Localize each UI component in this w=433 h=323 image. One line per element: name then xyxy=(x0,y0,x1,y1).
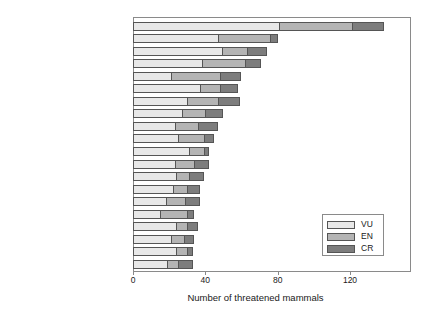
bar-china xyxy=(133,59,261,68)
bar-segment-en xyxy=(187,97,218,106)
bar-philippines xyxy=(133,109,223,118)
bar-australia xyxy=(133,97,240,106)
bar-segment-cr xyxy=(220,84,238,93)
x-axis-title: Number of threatened mammals xyxy=(0,292,433,303)
bar-segment-en xyxy=(166,197,186,206)
bar-segment-cr xyxy=(352,22,385,31)
bar-segment-en xyxy=(176,172,189,181)
bar-segment-vu xyxy=(133,160,175,169)
legend-swatch-cr xyxy=(327,245,355,253)
bar-segment-vu xyxy=(133,59,202,68)
bar-segment-cr xyxy=(187,222,198,231)
bar-segment-en xyxy=(167,260,178,269)
bar-segment-cr xyxy=(220,72,242,81)
bar-segment-vu xyxy=(133,72,171,81)
bar-segment-en xyxy=(160,210,187,219)
bar-segment-cr xyxy=(187,210,194,219)
bar-segment-cr xyxy=(205,109,223,118)
bar-segment-vu xyxy=(133,260,167,269)
bar-segment-vu xyxy=(133,134,178,143)
bar-segment-en xyxy=(175,160,195,169)
bar-segment-vu xyxy=(133,97,187,106)
x-tick-label: 80 xyxy=(273,275,282,285)
bar-segment-cr xyxy=(187,185,200,194)
bar-segment-vu xyxy=(133,84,200,93)
bar-malaysia xyxy=(133,160,209,169)
bar-segment-vu xyxy=(133,247,176,256)
bar-segment-vu xyxy=(133,34,218,43)
bar-segment-en xyxy=(176,247,187,256)
legend-item-vu: VU xyxy=(327,219,379,230)
legend-swatch-vu xyxy=(327,221,355,229)
bar-segment-en xyxy=(176,222,187,231)
bar-viet-nam xyxy=(133,197,200,206)
x-tick-label: 40 xyxy=(201,275,210,285)
bar-russian-federation xyxy=(133,235,194,244)
bar-segment-vu xyxy=(133,172,176,181)
bar-segment-en xyxy=(171,72,220,81)
x-tick-label: 0 xyxy=(131,275,136,285)
bar-segment-en xyxy=(279,22,351,31)
bar-segment-vu xyxy=(133,47,222,56)
bar-segment-en xyxy=(178,134,203,143)
bar-segment-cr xyxy=(270,34,277,43)
legend-item-en: EN xyxy=(327,231,379,242)
bar-indonesia xyxy=(133,22,384,31)
bar-segment-en xyxy=(173,185,187,194)
bar-segment-vu xyxy=(133,235,171,244)
bar-segment-cr xyxy=(178,260,192,269)
x-tick-label: 120 xyxy=(343,275,357,285)
bar-segment-en xyxy=(202,59,245,68)
legend-item-cr: CR xyxy=(327,243,379,254)
bar-segment-vu xyxy=(133,122,175,131)
bar-south-africa xyxy=(133,222,198,231)
bar-segment-en xyxy=(218,34,270,43)
bar-colombia xyxy=(133,247,193,256)
bar-segment-vu xyxy=(133,147,189,156)
legend-label: CR xyxy=(361,244,373,253)
bar-mexico xyxy=(133,72,241,81)
bar-segment-vu xyxy=(133,197,166,206)
bar-papua-new-guinea xyxy=(133,84,238,93)
bar-segment-en xyxy=(182,109,206,118)
bar-segment-cr xyxy=(184,235,195,244)
bar-segment-cr xyxy=(187,247,192,256)
bar-segment-vu xyxy=(133,109,182,118)
bar-segment-en xyxy=(175,122,199,131)
bar-segment-vu xyxy=(133,22,279,31)
bar-segment-en xyxy=(189,147,203,156)
bar-segment-cr xyxy=(204,147,209,156)
bar-segment-cr xyxy=(204,134,215,143)
bar-india xyxy=(133,34,278,43)
bar-brazil xyxy=(133,47,267,56)
bar-kenya xyxy=(133,134,214,143)
legend-swatch-en xyxy=(327,233,355,241)
bar-cameroon xyxy=(133,210,194,219)
bar-segment-vu xyxy=(133,185,173,194)
bar-congo-dem-republic-of xyxy=(133,172,204,181)
bar-segment-vu xyxy=(133,210,160,219)
bar-segment-cr xyxy=(198,122,218,131)
legend: VUENCR xyxy=(322,214,384,256)
bar-madagascar xyxy=(133,122,218,131)
bar-tanzania xyxy=(133,185,200,194)
legend-label: EN xyxy=(361,232,373,241)
bar-segment-en xyxy=(200,84,220,93)
bar-segment-cr xyxy=(245,59,261,68)
bar-segment-cr xyxy=(185,197,199,206)
x-axis-title-text: Number of threatened mammals xyxy=(187,292,323,303)
bar-ethiopia xyxy=(133,260,193,269)
bar-segment-cr xyxy=(247,47,267,56)
bar-segment-cr xyxy=(218,97,240,106)
bar-peru xyxy=(133,147,209,156)
bar-segment-en xyxy=(222,47,247,56)
bar-segment-vu xyxy=(133,222,176,231)
bar-segment-cr xyxy=(189,172,203,181)
legend-label: VU xyxy=(361,220,373,229)
threatened-mammals-bar-chart: IndonesiaIndiaBrazilChinaMexicoPapua New… xyxy=(0,0,433,323)
bar-segment-cr xyxy=(194,160,208,169)
bar-segment-en xyxy=(171,235,184,244)
